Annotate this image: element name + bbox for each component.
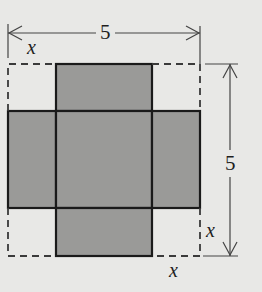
cutout-top-left (8, 64, 56, 111)
base-square (56, 111, 152, 208)
right-dimension-label: 5 (224, 150, 237, 177)
diagram-canvas: 5 5 x x x (0, 0, 262, 292)
shaded-net (8, 64, 200, 256)
top-dimension-label: 5 (96, 22, 115, 43)
bottom-right-horizontal-cut-label: x (169, 260, 178, 280)
bottom-right-vertical-cut-label: x (206, 220, 215, 240)
top-flap (56, 64, 152, 111)
top-left-cut-label: x (27, 37, 36, 57)
cutout-top-right (152, 64, 200, 111)
bottom-flap (56, 208, 152, 256)
cutout-bottom-right (152, 208, 200, 256)
cutout-bottom-left (8, 208, 56, 256)
left-flap (8, 111, 56, 208)
right-flap (152, 111, 200, 208)
box-net-figure (0, 0, 262, 292)
